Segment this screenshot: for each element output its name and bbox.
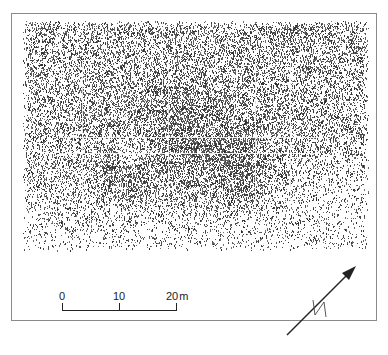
- north-arrow-icon: [280, 260, 360, 338]
- scale-tick: [119, 303, 120, 310]
- north-arrow: [280, 260, 360, 338]
- scale-label-0: 0: [59, 290, 65, 302]
- scale-bar-line: [62, 310, 177, 311]
- scale-tick: [62, 303, 63, 310]
- scale-tick: [176, 303, 177, 310]
- scale-bar: 0 10 20m: [58, 290, 180, 314]
- scale-label-20: 20m: [166, 290, 188, 302]
- survey-stipple-plot: [22, 20, 370, 252]
- scale-label-10: 10: [113, 290, 125, 302]
